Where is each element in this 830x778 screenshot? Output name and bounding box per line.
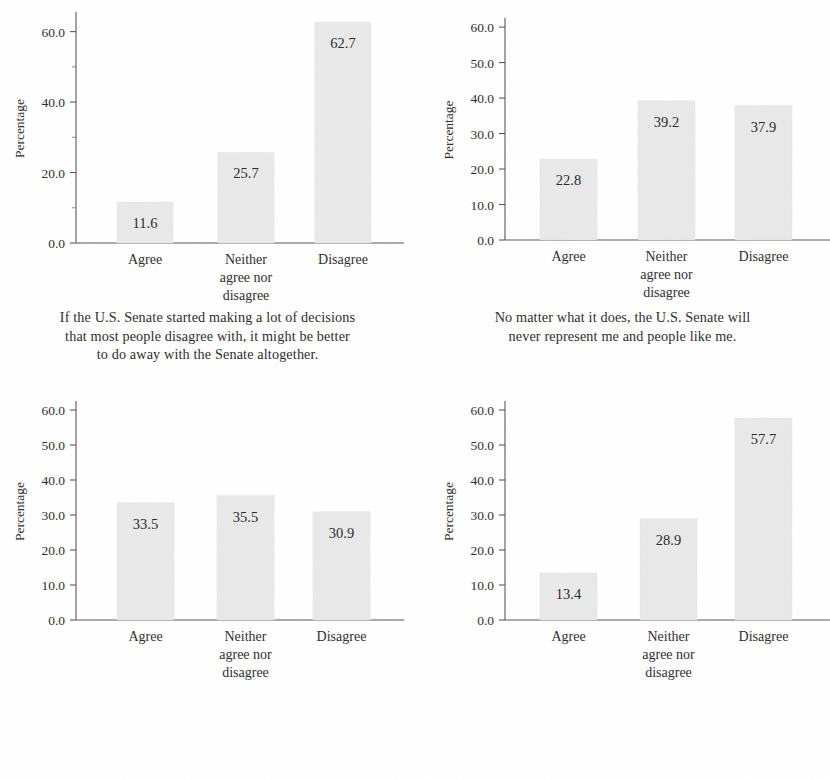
y-axis-tick-label: 40.0 (470, 473, 494, 488)
y-axis-tick-label: 30.0 (470, 127, 494, 142)
chart-panel-top-left: 0.020.040.060.0Percentage11.6Agree25.7Ne… (0, 0, 415, 370)
x-axis-tick-label: disagree (645, 665, 692, 680)
y-axis-title: Percentage (12, 99, 27, 158)
y-axis-tick-label: 60.0 (41, 25, 65, 40)
bar-value-label: 13.4 (556, 586, 582, 602)
x-axis-tick-label: Agree (551, 629, 585, 644)
bar-value-label: 22.8 (556, 172, 581, 188)
y-axis-tick-label: 0.0 (477, 233, 494, 248)
y-axis-title: Percentage (441, 100, 456, 159)
y-axis-tick-label: 10.0 (41, 578, 65, 593)
chart-panel-bottom-right: 0.010.020.030.040.050.060.0Percentage13.… (415, 385, 830, 778)
bar (315, 22, 371, 243)
bar-value-label: 35.5 (233, 509, 258, 525)
bar-value-label: 30.9 (329, 525, 354, 541)
y-axis-title: Percentage (441, 482, 456, 541)
x-axis-tick-label: agree nor (219, 647, 272, 662)
y-axis-tick-label: 20.0 (470, 543, 494, 558)
y-axis-tick-label: 0.0 (477, 613, 494, 628)
y-axis-tick-label: 60.0 (470, 20, 494, 35)
figure-sheet: 0.020.040.060.0Percentage11.6Agree25.7Ne… (0, 0, 830, 778)
y-axis-tick-label: 60.0 (470, 403, 494, 418)
bar-value-label: 28.9 (656, 532, 681, 548)
x-axis-tick-label: disagree (223, 288, 270, 303)
chart-panel-top-right: 0.010.020.030.040.050.060.0Percentage22.… (415, 0, 830, 370)
y-axis-tick-label: 50.0 (470, 56, 494, 71)
x-axis-tick-label: Agree (128, 252, 162, 267)
caption-line: If the U.S. Senate started making a lot … (0, 308, 415, 327)
y-axis-tick-label: 20.0 (41, 166, 65, 181)
bar-chart-bottom-right: 0.010.020.030.040.050.060.0Percentage13.… (415, 385, 830, 685)
caption-line: No matter what it does, the U.S. Senate … (415, 308, 830, 327)
y-axis-tick-label: 10.0 (470, 578, 494, 593)
x-axis-tick-label: agree nor (640, 267, 693, 282)
y-axis-tick-label: 20.0 (41, 543, 65, 558)
bar-chart-top-left: 0.020.040.060.0Percentage11.6Agree25.7Ne… (0, 0, 415, 305)
y-axis-tick-label: 20.0 (470, 162, 494, 177)
y-axis-tick-label: 50.0 (470, 438, 494, 453)
caption-line: to do away with the Senate altogether. (0, 345, 415, 364)
caption-line: never represent me and people like me. (415, 327, 830, 346)
x-axis-tick-label: disagree (643, 285, 690, 300)
y-axis-title: Percentage (12, 482, 27, 541)
y-axis-tick-label: 40.0 (41, 473, 65, 488)
x-axis-tick-label: Agree (128, 629, 162, 644)
x-axis-tick-label: disagree (222, 665, 269, 680)
bar-value-label: 37.9 (751, 119, 776, 135)
y-axis-tick-label: 30.0 (470, 508, 494, 523)
caption-line: that most people disagree with, it might… (0, 327, 415, 346)
bar (735, 418, 792, 620)
chart-caption-top-left: If the U.S. Senate started making a lot … (0, 308, 415, 364)
x-axis-tick-label: Agree (551, 249, 585, 264)
y-axis-tick-label: 60.0 (41, 403, 65, 418)
chart-caption-top-right: No matter what it does, the U.S. Senate … (415, 308, 830, 345)
bar-value-label: 39.2 (654, 114, 679, 130)
x-axis-tick-label: agree nor (642, 647, 695, 662)
x-axis-tick-label: Disagree (739, 629, 789, 644)
x-axis-tick-label: Neither (225, 629, 267, 644)
y-axis-tick-label: 30.0 (41, 508, 65, 523)
bar-chart-top-right: 0.010.020.030.040.050.060.0Percentage22.… (415, 0, 830, 305)
y-axis-tick-label: 40.0 (41, 95, 65, 110)
bar-value-label: 57.7 (751, 431, 776, 447)
y-axis-tick-label: 10.0 (470, 198, 494, 213)
y-axis-tick-label: 40.0 (470, 91, 494, 106)
x-axis-tick-label: Disagree (318, 252, 368, 267)
x-axis-tick-label: Neither (225, 252, 267, 267)
x-axis-tick-label: Neither (648, 629, 690, 644)
chart-panel-bottom-left: 0.010.020.030.040.050.060.0Percentage33.… (0, 385, 415, 778)
bar-value-label: 62.7 (330, 35, 355, 51)
bar-value-label: 25.7 (233, 165, 258, 181)
x-axis-tick-label: agree nor (220, 270, 273, 285)
x-axis-tick-label: Disagree (317, 629, 367, 644)
x-axis-tick-label: Disagree (739, 249, 789, 264)
bar-value-label: 33.5 (133, 516, 158, 532)
y-axis-tick-label: 0.0 (48, 613, 65, 628)
bar-value-label: 11.6 (133, 215, 158, 231)
y-axis-tick-label: 50.0 (41, 438, 65, 453)
bar-chart-bottom-left: 0.010.020.030.040.050.060.0Percentage33.… (0, 385, 415, 685)
y-axis-tick-label: 0.0 (48, 236, 65, 251)
x-axis-tick-label: Neither (646, 249, 688, 264)
